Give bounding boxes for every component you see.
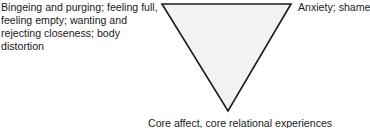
corner-label-defense: Bingeing and purging; feeling full, feel… — [1, 1, 161, 53]
inverted-triangle-shape — [162, 4, 291, 111]
corner-label-feeling: Core affect, core relational experiences — [148, 117, 332, 128]
corner-label-anxiety: Anxiety; shame — [298, 1, 370, 14]
